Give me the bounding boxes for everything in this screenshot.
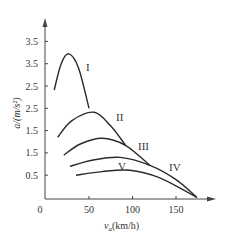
curve-label-III: III bbox=[138, 140, 149, 152]
y-tick-label: 1.5 bbox=[26, 147, 39, 158]
x-tick-label: 50 bbox=[84, 204, 94, 215]
curves bbox=[54, 54, 197, 198]
acceleration-speed-chart: 3.53.52.52.51.51.50.5 050100150 I II III… bbox=[0, 0, 229, 239]
curve-label-I: I bbox=[86, 61, 90, 73]
curve-label-II: II bbox=[116, 111, 124, 123]
curve-I bbox=[54, 54, 89, 108]
y-axis-arrow-icon bbox=[43, 18, 48, 27]
x-axis-title-rest: (km/h) bbox=[112, 220, 139, 232]
x-axis-title: va(km/h) bbox=[104, 220, 139, 233]
x-axis bbox=[45, 197, 216, 202]
y-axis-title: a/(m/s²) bbox=[11, 97, 23, 129]
y-tick-label: 3.5 bbox=[26, 36, 39, 47]
x-tick-label: 100 bbox=[125, 204, 140, 215]
x-tick-label: 0 bbox=[38, 204, 43, 215]
curve-label-IV: IV bbox=[169, 161, 181, 173]
y-tick-label: 2.5 bbox=[26, 103, 39, 114]
x-axis-arrow-icon bbox=[207, 197, 216, 202]
y-tick-label: 0.5 bbox=[26, 170, 39, 181]
x-tick-label: 150 bbox=[169, 204, 184, 215]
y-tick-label: 2.5 bbox=[26, 81, 39, 92]
y-tick-label: 3.5 bbox=[26, 58, 39, 69]
curve-label-V: V bbox=[118, 160, 126, 172]
y-tick-label: 1.5 bbox=[26, 125, 39, 136]
curve-V bbox=[76, 170, 197, 198]
